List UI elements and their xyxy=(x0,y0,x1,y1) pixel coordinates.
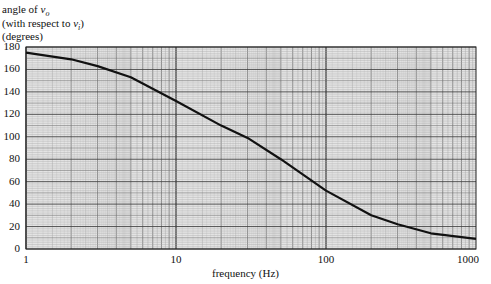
x-tick-label: 1 xyxy=(23,253,29,265)
y-tick-label: 60 xyxy=(0,176,20,187)
y-tick-label: 100 xyxy=(0,131,20,142)
x-tick-label: 10 xyxy=(171,253,182,265)
x-tick-label: 1000 xyxy=(457,253,479,265)
plot-area xyxy=(0,0,491,284)
y-tick-label: 180 xyxy=(0,41,20,52)
y-tick-label: 140 xyxy=(0,86,20,97)
y-tick-label: 0 xyxy=(0,243,20,254)
y-tick-label: 120 xyxy=(0,108,20,119)
y-tick-label: 160 xyxy=(0,63,20,74)
y-tick-label: 40 xyxy=(0,198,20,209)
y-tick-label: 80 xyxy=(0,153,20,164)
y-tick-label: 20 xyxy=(0,221,20,232)
x-axis-title: frequency (Hz) xyxy=(0,267,491,279)
x-tick-label: 100 xyxy=(318,253,335,265)
